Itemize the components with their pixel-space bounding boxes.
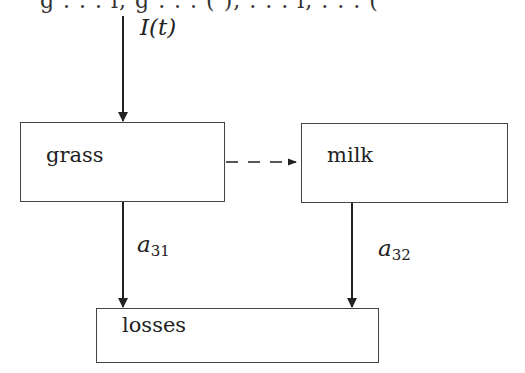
grass-label: grass: [46, 143, 104, 167]
a31-label: a31: [137, 231, 170, 260]
input-label-arg: (t): [149, 14, 176, 40]
input-label-symbol: I: [140, 14, 149, 40]
a31-label-subscript: 31: [151, 242, 170, 260]
grass-compartment: grass: [20, 122, 225, 202]
a32-label: a32: [378, 235, 411, 264]
losses-compartment: losses: [96, 308, 379, 363]
a32-label-subscript: 32: [392, 246, 411, 264]
milk-compartment: milk: [301, 123, 508, 203]
milk-label: milk: [327, 143, 373, 167]
a31-label-symbol: a: [137, 231, 151, 257]
losses-label: losses: [122, 313, 186, 337]
a32-label-symbol: a: [378, 235, 392, 261]
input-label: I(t): [140, 14, 176, 40]
